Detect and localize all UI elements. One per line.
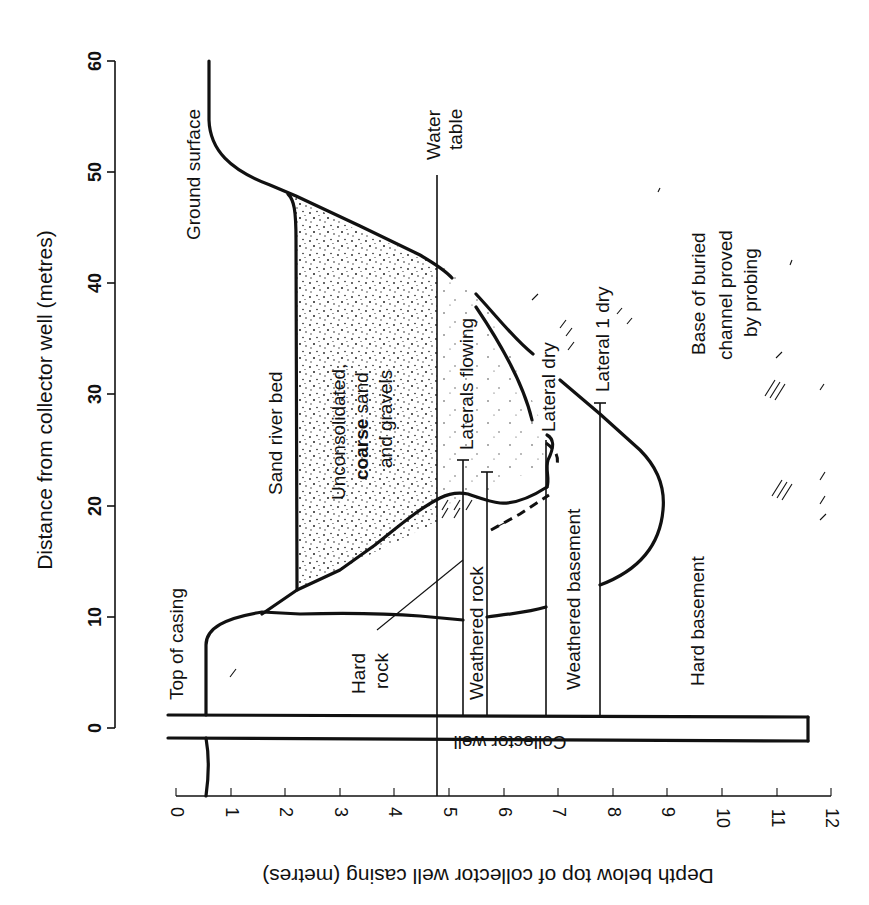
- x-tick-6: 6: [495, 807, 515, 817]
- sand-river-bed-line: [288, 194, 297, 590]
- hard-rock-surface-line: [206, 612, 463, 715]
- depth-axis: 0 1 2 3 4 5 6 7 8 9 10 11 12 Depth below…: [167, 788, 842, 888]
- x-tick-11: 11: [768, 809, 788, 828]
- x-tick-12: 12: [822, 808, 842, 828]
- label-sand-river-bed: Sand river bed: [265, 371, 286, 495]
- label-by-probing: by probing: [740, 248, 761, 337]
- label-lateral-1-dry: Lateral 1 dry: [592, 286, 613, 392]
- label-rock: rock: [371, 653, 392, 689]
- label-unconsolidated: Unconsolidated,: [328, 364, 349, 500]
- x-tick-10: 10: [713, 808, 733, 828]
- label-collector-well: Collector well: [454, 732, 567, 753]
- y-tick-10: 10: [85, 607, 105, 627]
- label-laterals-flowing: Laterals flowing: [456, 318, 477, 450]
- label-coarse: coarse: [351, 419, 372, 480]
- x-tick-2: 2: [276, 807, 296, 817]
- label-and-gravels: and gravels: [375, 370, 396, 468]
- y-tick-40: 40: [85, 273, 105, 293]
- y-axis-title: Distance from collector well (metres): [33, 230, 56, 570]
- label-sand: sand: [351, 372, 372, 418]
- x-tick-8: 8: [604, 807, 624, 817]
- label-ground-surface: Ground surface: [183, 109, 204, 240]
- weathered-rock-pointer-arrow: [491, 520, 510, 530]
- y-tick-30: 30: [85, 384, 105, 404]
- y-tick-0: 0: [85, 723, 105, 733]
- label-coarse-sand: coarse sand: [351, 372, 372, 480]
- x-tick-1: 1: [222, 807, 242, 817]
- label-hard: Hard: [348, 653, 369, 694]
- sparse-stipple-area: [437, 262, 545, 505]
- x-axis-title: Depth below top of collector well casing…: [262, 865, 714, 888]
- label-top-of-casing: Top of casing: [166, 588, 187, 700]
- x-tick-0: 0: [167, 807, 187, 817]
- label-lateral-dry: Lateral dry: [538, 342, 559, 432]
- x-tick-9: 9: [658, 807, 678, 817]
- label-weathered-basement: Weathered basement: [563, 508, 584, 690]
- label-weathered-rock: Weathered rock: [466, 566, 487, 700]
- label-base-of-buried: Base of buried: [688, 232, 709, 355]
- x-tick-5: 5: [440, 807, 460, 817]
- label-table: table: [445, 109, 466, 150]
- x-tick-3: 3: [331, 807, 351, 817]
- x-tick-7: 7: [549, 807, 569, 817]
- x-tick-4: 4: [385, 807, 405, 817]
- label-channel-proved: channel proved: [715, 230, 736, 360]
- geological-cross-section: 0 10 20 30 40 50 60 Distance from collec…: [0, 0, 869, 905]
- y-tick-60: 60: [85, 51, 105, 71]
- weathered-rock-contact-line: [487, 607, 546, 617]
- distance-axis: 0 10 20 30 40 50 60 Distance from collec…: [33, 51, 115, 733]
- y-tick-20: 20: [85, 496, 105, 516]
- label-water: Water: [423, 109, 444, 160]
- y-tick-50: 50: [85, 162, 105, 182]
- label-hard-basement: Hard basement: [687, 555, 708, 686]
- ground-below-well-line: [206, 738, 208, 796]
